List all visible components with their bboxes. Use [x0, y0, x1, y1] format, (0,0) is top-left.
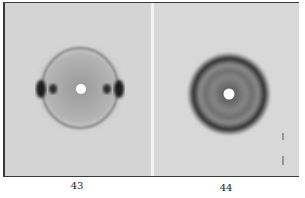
diffraction-pattern-44: [154, 3, 299, 176]
beam-stop-spot: [76, 84, 86, 94]
figure-frame: [3, 2, 299, 177]
beam-stop-spot: [224, 89, 235, 100]
figure-label-44: 44: [206, 182, 246, 193]
diffraction-pattern-43: [5, 3, 151, 176]
pattern-43-graphic: [5, 3, 151, 176]
figure-label-43: 43: [57, 180, 97, 191]
pattern-44-graphic: [154, 3, 299, 176]
